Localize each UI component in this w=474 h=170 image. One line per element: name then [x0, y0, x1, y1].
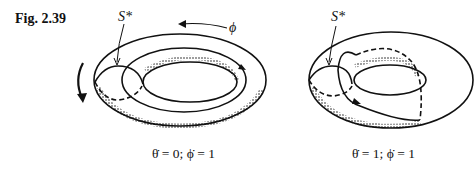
- left-torus: [77, 20, 266, 126]
- left-caption: θ̇ = 0; ϕ̇ = 1: [152, 146, 215, 162]
- right-caption: θ̇ = 1; ϕ̇ = 1: [352, 146, 415, 162]
- left-angle-label: ϕ: [229, 20, 236, 36]
- left-section-label: S*: [118, 9, 132, 25]
- right-torus: [309, 26, 473, 128]
- torus-diagrams: [0, 0, 474, 170]
- right-section-label: S*: [331, 9, 345, 25]
